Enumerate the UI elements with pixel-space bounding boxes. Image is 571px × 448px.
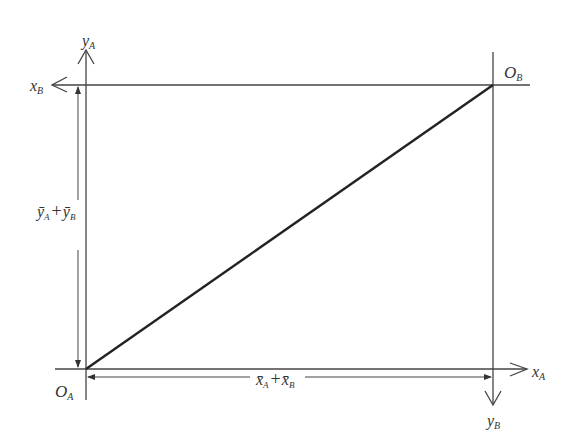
origin-a-label: OA: [55, 382, 74, 402]
x-a-label: xA: [531, 363, 546, 382]
origin-b-label: OB: [504, 63, 522, 83]
box-axes: [52, 50, 530, 405]
contract-curve: [86, 85, 493, 369]
height-dimension-label: ȳA+ȳB: [35, 201, 76, 222]
y-b-label: yB: [485, 412, 500, 431]
x-b-label: xB: [29, 77, 43, 96]
edgeworth-box-diagram: yA xB OB OA xA yB ȳA+ȳB x̄A+x̄B: [0, 0, 571, 448]
y-a-label: yA: [80, 32, 96, 51]
width-dimension-label: x̄A+x̄B: [255, 369, 295, 390]
